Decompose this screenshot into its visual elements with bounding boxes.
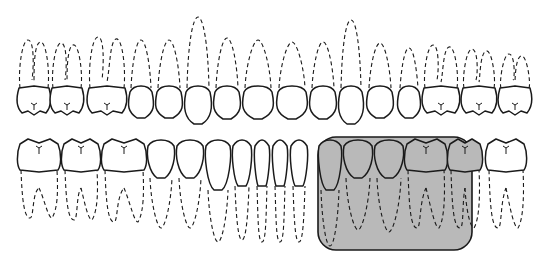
dental-arch-diagram [0, 0, 548, 269]
upper-tooth-incisor [243, 40, 274, 119]
upper-tooth-molar [87, 37, 127, 115]
upper-tooth-incisor [277, 42, 308, 119]
dental-chart [0, 0, 548, 269]
lower-tooth-molar [101, 139, 146, 222]
upper-tooth-canine [185, 17, 212, 124]
lower-tooth-incisor [272, 140, 287, 242]
upper-tooth-premolar [367, 43, 394, 118]
upper-tooth-canine [338, 20, 363, 124]
lower-tooth-incisor [254, 140, 269, 242]
lower-tooth-molar [61, 139, 100, 220]
upper-tooth-molar [422, 45, 460, 115]
lower-tooth-incisor [232, 140, 251, 240]
upper-tooth-molar [461, 49, 497, 115]
lower-tooth-premolar [176, 140, 203, 228]
lower-tooth-molar [17, 139, 60, 218]
upper-tooth-premolar [128, 40, 153, 118]
upper-tooth-molar [498, 54, 532, 115]
lower-tooth-premolar [147, 140, 174, 228]
upper-tooth-incisor [310, 42, 337, 119]
upper-tooth-molar [17, 40, 51, 115]
lower-tooth-incisor [290, 140, 307, 242]
upper-tooth-molar [50, 43, 84, 115]
lower-tooth-molar [485, 139, 526, 228]
upper-tooth-premolar [156, 40, 183, 118]
lower-tooth-canine [205, 140, 230, 242]
upper-arch [17, 17, 532, 124]
upper-tooth-premolar [397, 48, 420, 118]
upper-tooth-incisor [214, 38, 241, 119]
